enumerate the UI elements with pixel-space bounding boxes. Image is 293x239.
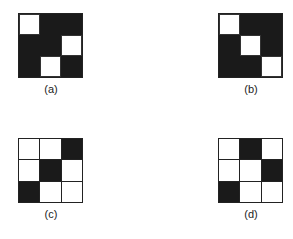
cell-b-0-1 <box>240 14 261 35</box>
grid-a <box>18 13 83 78</box>
cell-a-2-2 <box>61 56 82 77</box>
cell-d-2-0 <box>219 182 239 202</box>
cell-d-0-1 <box>240 139 260 159</box>
panel-c: (c) <box>18 138 84 203</box>
cell-c-0-2 <box>62 139 82 159</box>
panel-d: (d) <box>218 138 284 203</box>
cell-b-2-2 <box>261 56 282 77</box>
grid-c <box>18 138 83 203</box>
cell-c-2-0 <box>19 182 39 202</box>
cell-a-2-0 <box>19 56 40 77</box>
cell-c-0-0 <box>19 139 39 159</box>
cell-b-2-1 <box>240 56 261 77</box>
cell-b-1-0 <box>219 35 240 56</box>
cell-c-2-1 <box>40 182 60 202</box>
panel-b: (b) <box>218 13 284 78</box>
cell-a-0-0 <box>19 14 40 35</box>
cell-a-2-1 <box>40 56 61 77</box>
cell-a-1-0 <box>19 35 40 56</box>
cell-b-0-2 <box>261 14 282 35</box>
cell-a-1-2 <box>61 35 82 56</box>
label-d: (d) <box>218 208 284 220</box>
cell-d-1-1 <box>240 160 260 180</box>
cell-b-1-2 <box>261 35 282 56</box>
cell-d-2-2 <box>262 182 282 202</box>
panel-a: (a) <box>18 13 84 78</box>
cell-b-2-0 <box>219 56 240 77</box>
cell-d-0-0 <box>219 139 239 159</box>
cell-c-1-0 <box>19 160 39 180</box>
cell-b-1-1 <box>240 35 261 56</box>
cell-a-1-1 <box>40 35 61 56</box>
label-c: (c) <box>18 208 84 220</box>
cell-d-2-1 <box>240 182 260 202</box>
cell-d-1-2 <box>262 160 282 180</box>
cell-c-1-2 <box>62 160 82 180</box>
cell-c-2-2 <box>62 182 82 202</box>
cell-b-0-0 <box>219 14 240 35</box>
label-a: (a) <box>18 83 84 95</box>
cell-d-0-2 <box>262 139 282 159</box>
cell-a-0-2 <box>61 14 82 35</box>
cell-c-0-1 <box>40 139 60 159</box>
cell-a-0-1 <box>40 14 61 35</box>
cell-c-1-1 <box>40 160 60 180</box>
label-b: (b) <box>218 83 284 95</box>
cell-d-1-0 <box>219 160 239 180</box>
grid-d <box>218 138 283 203</box>
grid-b <box>218 13 283 78</box>
